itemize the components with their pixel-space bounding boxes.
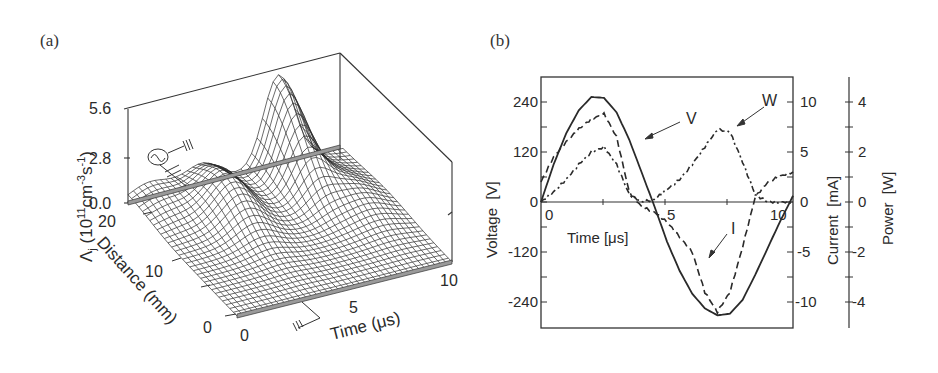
power-tick: 0 xyxy=(858,193,866,210)
annotation-i: I xyxy=(731,220,735,237)
time-axis-label: Time [μs] xyxy=(567,229,628,246)
distance-tick: 20 xyxy=(98,213,116,230)
panel-a: (a) Λj (1011cm-3s-1) 5.6 2.8 0.0 xyxy=(40,31,458,344)
voltage-tick: 0 xyxy=(530,193,538,210)
figure: (a) Λj (1011cm-3s-1) 5.6 2.8 0.0 xyxy=(0,0,938,373)
z-tick: 2.8 xyxy=(89,150,111,167)
annotation-v: V xyxy=(686,110,697,127)
surface-mesh xyxy=(128,75,452,316)
annotations xyxy=(645,107,764,258)
z-axis-ticks: 5.6 2.8 0.0 xyxy=(89,100,111,212)
voltage-tick: 240 xyxy=(513,93,538,110)
current-tick: 10 xyxy=(800,93,817,110)
current-tick: 5 xyxy=(800,143,808,160)
power-tick: -4 xyxy=(852,293,865,310)
power-tick: 2 xyxy=(858,143,866,160)
time-tick: 5 xyxy=(667,206,675,223)
time-tick: 5 xyxy=(349,299,358,316)
z-tick: 0.0 xyxy=(89,195,111,212)
current-tick: -5 xyxy=(797,243,810,260)
time-tick: 10 xyxy=(440,272,458,289)
power-tick: 4 xyxy=(858,93,866,110)
distance-axis-label: Distance (mm) xyxy=(93,233,181,328)
current-tick: 0 xyxy=(800,193,808,210)
voltage-tick: -120 xyxy=(508,243,538,260)
distance-tick: 0 xyxy=(203,319,212,336)
panel-b-label: (b) xyxy=(490,31,510,50)
time-axis-label: Time (μs) xyxy=(328,308,402,344)
current-axis-label: Current [mA] xyxy=(824,176,841,265)
panel-b: (b) 240 120 0 -120 -240 Voltage [V] 10 5… xyxy=(483,31,896,328)
voltage-tick: -240 xyxy=(508,293,538,310)
annotation-w: W xyxy=(762,92,778,109)
ground-icon xyxy=(293,302,320,331)
power-axis-label: Power [W] xyxy=(879,172,896,245)
power-tick: -2 xyxy=(852,243,865,260)
current-tick: -10 xyxy=(795,293,817,310)
voltage-tick: 120 xyxy=(513,143,538,160)
z-tick: 5.6 xyxy=(89,100,111,117)
time-tick: 0 xyxy=(240,327,249,344)
voltage-axis-label: Voltage [V] xyxy=(483,181,500,258)
time-tick: 0 xyxy=(545,206,553,223)
panel-a-label: (a) xyxy=(40,31,59,50)
curve-w xyxy=(541,129,793,203)
